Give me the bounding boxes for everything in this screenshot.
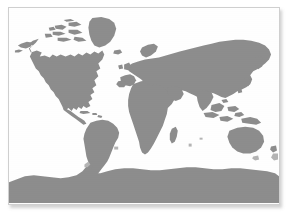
world-map-figure — [0, 0, 290, 215]
world-map-svg — [9, 8, 279, 204]
map-panel — [8, 7, 280, 205]
